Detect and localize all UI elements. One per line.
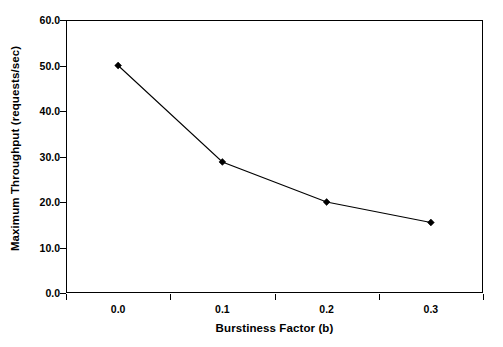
x-tick-label: 0.2 — [297, 303, 357, 315]
x-tick-mark — [170, 294, 171, 300]
x-tick-label: 0.1 — [192, 303, 252, 315]
y-tick-mark — [60, 248, 66, 249]
y-tick-label: 60.0 — [26, 15, 60, 25]
x-tick-mark — [483, 294, 484, 300]
y-axis-tick-labels: 0.010.020.030.040.050.060.0 — [26, 0, 60, 347]
x-axis-title: Burstiness Factor (b) — [66, 322, 483, 334]
y-tick-label: 30.0 — [26, 152, 60, 162]
y-axis-title: Maximum Throughput (requests/sec) — [4, 2, 26, 295]
y-tick-mark — [60, 157, 66, 158]
x-tick-mark — [275, 294, 276, 300]
y-tick-mark — [60, 66, 66, 67]
x-tick-mark — [379, 294, 380, 300]
y-tick-label: 20.0 — [26, 197, 60, 207]
chart-figure: Maximum Throughput (requests/sec) 0.010.… — [0, 0, 503, 347]
x-tick-mark — [66, 294, 67, 300]
y-tick-mark — [60, 111, 66, 112]
plot-area — [66, 20, 483, 293]
y-tick-label: 10.0 — [26, 243, 60, 253]
x-tick-label: 0.3 — [401, 303, 461, 315]
x-tick-label: 0.0 — [88, 303, 148, 315]
y-tick-label: 0.0 — [26, 288, 60, 298]
y-tick-mark — [60, 202, 66, 203]
y-tick-label: 50.0 — [26, 61, 60, 71]
y-tick-label: 40.0 — [26, 106, 60, 116]
y-tick-mark — [60, 20, 66, 21]
